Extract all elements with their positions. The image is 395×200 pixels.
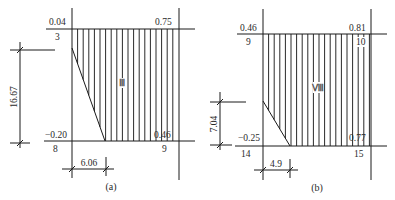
diagram-canvas: 16.67 6.06 0.04 0.75 −0.20 0.46 3 8 9 Ⅲ …: [0, 0, 395, 200]
value-bottom-left-a: −0.20: [45, 130, 67, 140]
node-label-10: 10: [356, 37, 366, 47]
figure-b: 7.04 4.9 0.46 0.81 −0.25 0.77 9 10 14 15…: [209, 9, 387, 194]
node-label-15: 15: [354, 149, 364, 159]
region-label-b: Ⅷ: [311, 83, 324, 93]
node-label-14: 14: [241, 149, 251, 159]
value-top-left-b: 0.46: [240, 23, 257, 33]
region-label-a: Ⅲ: [119, 78, 125, 88]
caption-a: (a): [105, 181, 116, 193]
node-label-8: 8: [53, 144, 58, 154]
node-label-9: 9: [162, 144, 167, 154]
value-top-right-b: 0.81: [349, 23, 366, 33]
value-top-right-a: 0.75: [155, 17, 172, 27]
value-top-left-a: 0.04: [49, 17, 66, 27]
value-bottom-right-b: 0.77: [349, 133, 366, 143]
vertical-dimension-label-a: 16.67: [9, 86, 19, 108]
node-label-3: 3: [55, 32, 60, 42]
value-bottom-right-a: 0.46: [154, 130, 171, 140]
value-bottom-left-b: −0.25: [238, 133, 260, 143]
zero-line-b: [263, 101, 290, 146]
caption-b: (b): [311, 182, 323, 194]
figure-a: 16.67 6.06 0.04 0.75 −0.20 0.46 3 8 9 Ⅲ …: [9, 8, 195, 193]
horizontal-dimension-label-a: 6.06: [81, 158, 98, 168]
horizontal-dimension-label-b: 4.9: [270, 159, 282, 169]
vertical-dimension-label-b: 7.04: [209, 115, 219, 132]
node-label-9: 9: [246, 37, 251, 47]
